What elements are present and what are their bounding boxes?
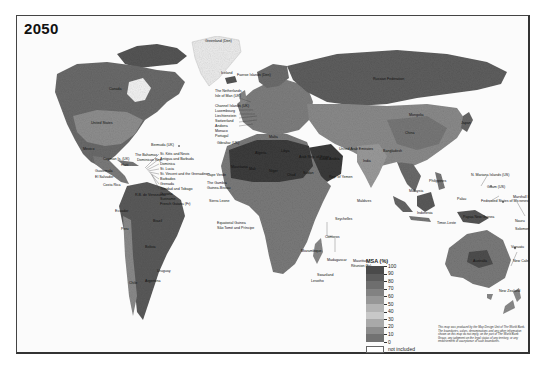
legend-color-bar	[366, 266, 384, 342]
label-gibraltar: Gibraltar (UK)	[217, 141, 239, 145]
label-haiti: Haiti	[121, 163, 128, 167]
label-indonesia: Indonesia	[417, 211, 433, 215]
tasmania-shape	[487, 294, 493, 300]
label-costa-rica: Costa Rica	[103, 183, 121, 187]
legend-title: MSA (%)	[366, 258, 388, 264]
label-china: China	[405, 131, 414, 135]
legend-not-included-swatch	[366, 346, 384, 353]
label-uruguay: Uruguay	[157, 269, 171, 273]
legend-swatch	[366, 304, 384, 312]
label-greenland: Greenland (Den)	[205, 39, 232, 43]
label-dominican-rep: Dominican Rep.	[137, 158, 163, 162]
label-isle-of-man: Isle of Man (UK)	[215, 94, 241, 98]
legend-tick-mark	[384, 319, 387, 320]
label-chad: Chad	[287, 173, 296, 177]
label-japan: Japan	[461, 121, 471, 125]
label-iceland: Iceland	[221, 71, 233, 75]
label-venezuela: R.B. de Venezuela	[135, 193, 165, 197]
label-sao-tome: São Tomé and Príncipe	[217, 226, 254, 230]
label-suriname: Suriname	[160, 197, 175, 201]
label-liechtenstein: Liechtenstein	[215, 114, 236, 118]
legend-swatch	[366, 274, 384, 282]
legend-swatch	[366, 289, 384, 297]
label-russia: Russian Federation	[373, 77, 404, 81]
label-mongolia: Mongolia	[409, 113, 424, 117]
legend-tick-50: 50	[388, 302, 394, 307]
label-portugal: Portugal	[215, 134, 229, 138]
label-guam: Guam (US)	[487, 185, 505, 189]
label-el-salvador: El Salvador	[95, 175, 114, 179]
label-solomon: Solomon Islands	[515, 227, 529, 231]
label-timor: Timor-Leste	[437, 221, 456, 225]
label-french-guiana: French Guiana (Fr)	[160, 202, 191, 206]
legend-tick-20: 20	[388, 324, 394, 329]
sahara-region	[229, 140, 313, 182]
label-philippines: Philippines	[429, 179, 447, 183]
label-guinea-bissau: Guinea-Bissau	[207, 186, 231, 190]
legend-swatch	[366, 281, 384, 289]
label-nauru: Nauru	[515, 219, 525, 223]
legend-not-included-label: not included	[388, 346, 415, 352]
legend-tick-100: 100	[388, 264, 396, 269]
label-uae: United Arab Emirates	[339, 147, 373, 151]
arctic-islands-shape	[117, 44, 187, 68]
label-trinidad: Trinidad and Tobago	[160, 187, 193, 191]
label-andorra: Andorra	[215, 124, 228, 128]
legend-tick-30: 30	[388, 317, 394, 322]
java-shape	[409, 216, 431, 222]
legend-swatch	[366, 319, 384, 327]
label-bahamas: The Bahamas	[135, 153, 158, 157]
borneo-shape	[417, 192, 435, 212]
label-libya: Libya	[281, 149, 290, 153]
label-sudan: Sudan	[303, 171, 313, 175]
label-st-vincent: St. Vincent and the Grenadines	[160, 172, 210, 176]
label-gambia: The Gambia	[207, 181, 227, 185]
label-luxembourg: Luxembourg	[215, 109, 235, 113]
map-disclaimer: This map was produced by the Map Design …	[438, 326, 526, 344]
label-united-states: United States	[91, 121, 113, 125]
label-mozambique: Mozambique	[301, 249, 322, 253]
label-bangladesh: Bangladesh	[383, 149, 402, 153]
legend-tick-60: 60	[388, 294, 394, 299]
label-micronesia: Federated States of Micronesia	[481, 199, 529, 203]
legend-swatch	[366, 266, 384, 274]
legend-swatch	[366, 334, 384, 342]
legend-tick-mark	[384, 312, 387, 313]
se-asia-shape	[397, 162, 421, 192]
label-bolivia: Bolivia	[145, 245, 156, 249]
legend-swatch	[366, 327, 384, 335]
label-st-lucia: St. Lucia	[160, 167, 174, 171]
label-grenada: Grenada	[160, 182, 174, 186]
label-malta: Malta	[269, 135, 278, 139]
legend-tick-mark	[384, 334, 387, 335]
label-new-caledonia: New Caledonia (Fr)	[513, 259, 529, 263]
legend-tick-mark	[384, 296, 387, 297]
label-seychelles: Seychelles	[335, 217, 353, 221]
label-switzerland: Switzerland	[215, 119, 234, 123]
legend-tick-10: 10	[388, 332, 394, 337]
legend-swatch	[366, 296, 384, 304]
legend-tick-mark	[384, 304, 387, 305]
label-madagascar: Madagascar	[327, 258, 348, 262]
legend-tick-70: 70	[388, 286, 394, 291]
label-n-mariana: N. Mariana Islands (US)	[471, 173, 509, 177]
label-mexico: Mexico	[83, 147, 94, 151]
label-peru: Peru	[121, 227, 129, 231]
label-cape-verde: Cape Verde	[207, 173, 226, 177]
label-faroe: Faeroe Islands (Den)	[237, 73, 271, 77]
label-marshall: Marshall Islands	[513, 195, 529, 199]
label-algeria: Algeria	[255, 151, 266, 155]
legend-tick-90: 90	[388, 271, 394, 276]
label-guatemala: Guatemala	[95, 169, 113, 173]
label-maldives: Maldives	[357, 199, 371, 203]
label-eq-guinea: Equatorial Guinea	[217, 221, 246, 225]
legend-tick-mark	[384, 289, 387, 290]
label-new-zealand: New Zealand	[499, 289, 520, 293]
legend-tick-mark	[384, 327, 387, 328]
label-australia: Australia	[473, 259, 487, 263]
label-channel-islands: Channel Islands (UK)	[215, 104, 249, 108]
legend-tick-0: 0	[388, 340, 391, 345]
legend-tick-mark	[384, 342, 387, 343]
label-argentina: Argentina	[145, 279, 160, 283]
label-st-kitts: St. Kitts and Nevis	[160, 152, 190, 156]
